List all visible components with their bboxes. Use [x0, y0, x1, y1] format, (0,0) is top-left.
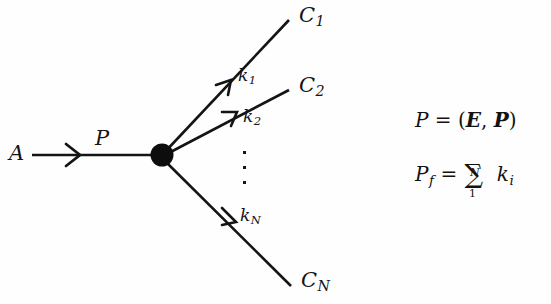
- equation-momentum-conservation: Pf = ∑N1 ki: [415, 159, 514, 187]
- equation-four-momentum: P = (E, P): [415, 110, 517, 130]
- equation2-term: k: [497, 162, 509, 186]
- label-outgoing-cn-subscript: N: [317, 278, 330, 294]
- equation1-lhs: P: [415, 108, 428, 132]
- vertical-ellipsis-icon: [242, 151, 247, 184]
- outgoing-line-c1: [163, 20, 289, 154]
- label-momentum-k1-base: k: [238, 65, 248, 85]
- label-incoming-momentum: P: [95, 128, 109, 149]
- label-outgoing-c1-base: C: [299, 3, 315, 27]
- equation1-close-paren: ): [509, 108, 517, 132]
- label-momentum-kn: kN: [240, 207, 261, 227]
- label-outgoing-c1: C1: [299, 5, 325, 28]
- label-outgoing-cn: CN: [301, 270, 330, 293]
- label-momentum-k2-base: k: [243, 106, 253, 126]
- interaction-vertex-blob: [151, 144, 174, 167]
- label-outgoing-c2: C2: [299, 75, 325, 98]
- label-outgoing-c2-base: C: [299, 73, 315, 97]
- equation1-energy: E: [466, 108, 481, 132]
- equation2-lhs: P: [415, 162, 428, 186]
- label-outgoing-c1-subscript: 1: [315, 13, 325, 29]
- label-outgoing-cn-base: C: [301, 268, 317, 292]
- equation1-equals: =: [435, 108, 452, 132]
- label-outgoing-c2-subscript: 2: [315, 83, 325, 99]
- summation-lower-limit: 1: [469, 188, 476, 199]
- equation1-three-momentum: P: [494, 108, 509, 132]
- momentum-arrowhead-kn: [222, 208, 236, 225]
- label-momentum-k1-subscript: 1: [248, 73, 256, 87]
- equation2-term-subscript: i: [509, 172, 514, 188]
- decay-diagram-graphic: [0, 0, 551, 304]
- equation1-open-paren: (: [458, 108, 466, 132]
- label-momentum-k2-subscript: 2: [253, 114, 261, 128]
- label-momentum-k2: k2: [243, 108, 261, 128]
- summation-upper-limit: N: [470, 167, 480, 178]
- outgoing-line-c2: [163, 90, 289, 156]
- label-momentum-k1: k1: [238, 67, 256, 87]
- figure-canvas: A P k1 k2 kN C1 C2 CN P = (E, P) Pf = ∑N…: [0, 0, 551, 304]
- label-momentum-kn-base: k: [240, 205, 250, 225]
- equation2-equals: =: [440, 162, 457, 186]
- label-momentum-kn-subscript: N: [250, 213, 261, 227]
- label-incoming-particle: A: [9, 143, 24, 164]
